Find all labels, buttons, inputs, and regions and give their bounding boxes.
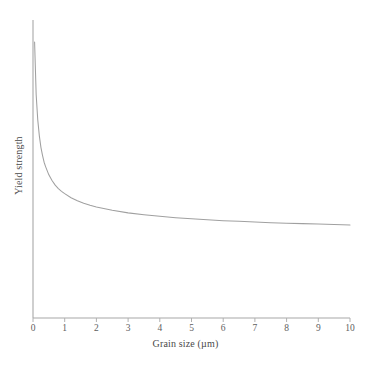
x-tick-label: 7: [243, 323, 267, 334]
x-axis-ticks: [33, 318, 350, 322]
x-tick-label: 9: [306, 323, 330, 334]
x-tick-label: 6: [211, 323, 235, 334]
x-tick-label: 10: [338, 323, 362, 334]
x-tick-label: 0: [21, 323, 45, 334]
chart-figure: 012345678910 Grain size (µm) Yield stren…: [0, 0, 371, 368]
y-axis-label-container: Yield strength: [8, 120, 24, 220]
x-tick-label: 8: [275, 323, 299, 334]
plot-area: [0, 0, 371, 368]
x-axis-label: Grain size (µm): [0, 338, 371, 349]
x-tick-label: 1: [53, 323, 77, 334]
x-tick-label: 5: [180, 323, 204, 334]
x-tick-label: 4: [148, 323, 172, 334]
x-tick-label: 3: [116, 323, 140, 334]
y-axis-label: Yield strength: [13, 120, 24, 212]
data-curve-hall-petch: [35, 42, 350, 225]
x-tick-label: 2: [84, 323, 108, 334]
